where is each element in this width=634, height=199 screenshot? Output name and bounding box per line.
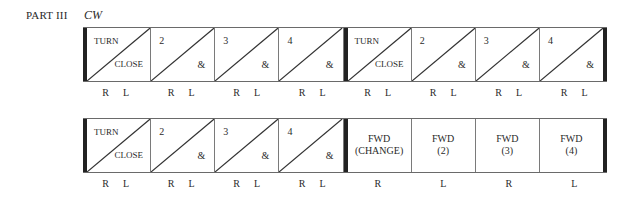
left-foot-label: L xyxy=(516,87,522,98)
step-cell-4: 4 & xyxy=(540,28,607,81)
foot-labels-row-1: RL RL RL RL RL RL RL RL xyxy=(83,87,607,98)
count-label: 3 xyxy=(484,35,489,46)
and-label: & xyxy=(262,150,270,161)
count-label: TURN xyxy=(94,36,119,46)
step-cell-4: 4 & xyxy=(279,119,343,172)
foot-pair: RL xyxy=(214,178,280,189)
step-cell-3: 3 & xyxy=(215,28,279,81)
right-foot-label: R xyxy=(299,178,306,189)
left-foot-label: L xyxy=(451,87,457,98)
action-label: CLOSE xyxy=(115,59,144,69)
foot-pair: RL xyxy=(411,87,477,98)
left-foot-label: L xyxy=(320,178,326,189)
foot-label: R xyxy=(374,178,381,189)
right-foot-label: R xyxy=(168,87,175,98)
foot-pair: RL xyxy=(345,87,411,98)
foot-single: L xyxy=(542,178,608,189)
step-count: (4) xyxy=(540,145,603,157)
step-cell-fwd-4: FWD (4) xyxy=(540,119,607,172)
action-label: CLOSE xyxy=(375,59,404,69)
and-label: & xyxy=(326,150,334,161)
right-foot-label: R xyxy=(168,178,175,189)
right-foot-label: R xyxy=(561,87,568,98)
and-label: & xyxy=(326,59,334,70)
count-label: TURN xyxy=(355,36,380,46)
step-cell-turn-close: TURN CLOSE xyxy=(83,119,151,172)
foot-labels-row-2: RL RL RL RL R L R L xyxy=(83,178,607,189)
left-foot-label: L xyxy=(254,87,260,98)
right-foot-label: R xyxy=(102,87,109,98)
right-foot-label: R xyxy=(299,87,306,98)
step-direction: FWD xyxy=(412,133,475,145)
step-count: (2) xyxy=(412,145,475,157)
and-label: & xyxy=(522,59,530,70)
right-foot-label: R xyxy=(364,87,371,98)
count-label: 2 xyxy=(159,126,164,137)
step-count: (3) xyxy=(476,145,539,157)
left-foot-label: L xyxy=(189,87,195,98)
direction-label: CW xyxy=(84,8,102,23)
step-cell-3: 3 & xyxy=(476,28,540,81)
left-foot-label: L xyxy=(320,87,326,98)
count-label: 4 xyxy=(287,126,292,137)
count-label: 2 xyxy=(159,35,164,46)
and-label: & xyxy=(197,59,205,70)
right-foot-label: R xyxy=(233,87,240,98)
step-direction: FWD xyxy=(476,133,539,145)
left-foot-label: L xyxy=(582,87,588,98)
left-foot-label: L xyxy=(189,178,195,189)
foot-pair: RL xyxy=(83,87,149,98)
foot-single: L xyxy=(411,178,477,189)
foot-label: L xyxy=(440,178,446,189)
foot-label: L xyxy=(571,178,577,189)
action-label: CLOSE xyxy=(115,150,144,160)
count-label: 3 xyxy=(223,35,228,46)
step-cell-2: 2 & xyxy=(412,28,476,81)
step-cell-turn-close: TURN CLOSE xyxy=(344,28,412,81)
step-text: FWD (CHANGE) xyxy=(348,133,411,157)
step-row-1: TURN CLOSE 2 & 3 & 4 & TURN CLOSE 2 & 3 … xyxy=(83,27,607,82)
foot-single: R xyxy=(476,178,542,189)
count-label: 2 xyxy=(420,35,425,46)
and-label: & xyxy=(262,59,270,70)
step-cell-turn-close: TURN CLOSE xyxy=(83,28,151,81)
step-cell-4: 4 & xyxy=(279,28,343,81)
foot-pair: RL xyxy=(476,87,542,98)
right-foot-label: R xyxy=(233,178,240,189)
right-foot-label: R xyxy=(495,87,502,98)
count-label: TURN xyxy=(94,127,119,137)
step-text: FWD (3) xyxy=(476,133,539,157)
foot-label: R xyxy=(505,178,512,189)
foot-pair: RL xyxy=(149,178,215,189)
step-cell-fwd-change: FWD (CHANGE) xyxy=(344,119,412,172)
left-foot-label: L xyxy=(123,87,129,98)
foot-single: R xyxy=(345,178,411,189)
part-title: PART III xyxy=(26,9,68,21)
right-foot-label: R xyxy=(430,87,437,98)
count-label: 3 xyxy=(223,126,228,137)
foot-pair: RL xyxy=(214,87,280,98)
and-label: & xyxy=(197,150,205,161)
foot-pair: RL xyxy=(280,87,346,98)
step-row-2: TURN CLOSE 2 & 3 & 4 & FWD (CHANGE) FWD … xyxy=(83,118,607,173)
left-foot-label: L xyxy=(254,178,260,189)
right-foot-label: R xyxy=(102,178,109,189)
foot-pair: RL xyxy=(83,178,149,189)
foot-pair: RL xyxy=(280,178,346,189)
count-label: 4 xyxy=(548,35,553,46)
foot-pair: RL xyxy=(542,87,608,98)
step-cell-fwd-2: FWD (2) xyxy=(412,119,476,172)
step-direction: FWD xyxy=(348,133,411,145)
step-cell-2: 2 & xyxy=(151,119,215,172)
step-cell-fwd-3: FWD (3) xyxy=(476,119,540,172)
count-label: 4 xyxy=(287,35,292,46)
and-label: & xyxy=(458,59,466,70)
step-text: FWD (4) xyxy=(540,133,603,157)
and-label: & xyxy=(586,59,594,70)
step-cell-3: 3 & xyxy=(215,119,279,172)
step-direction: FWD xyxy=(540,133,603,145)
left-foot-label: L xyxy=(123,178,129,189)
left-foot-label: L xyxy=(385,87,391,98)
step-cell-2: 2 & xyxy=(151,28,215,81)
step-count: (CHANGE) xyxy=(348,145,411,157)
